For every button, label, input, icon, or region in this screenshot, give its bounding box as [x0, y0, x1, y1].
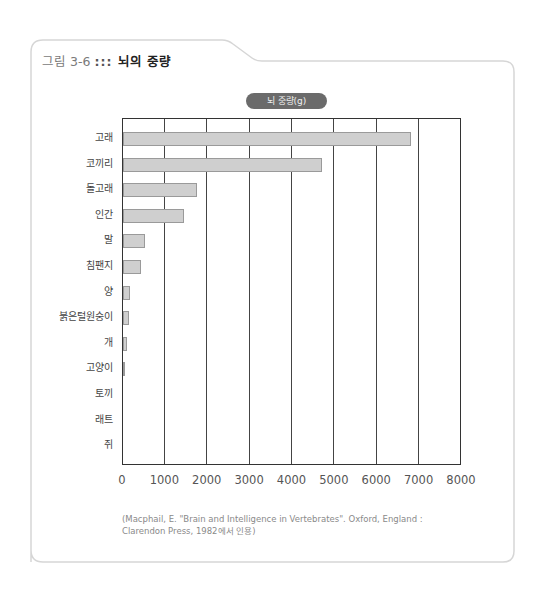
bar [123, 132, 411, 146]
y-category-label: 고래 [95, 131, 113, 145]
source-line-1: (Macphail, E. "Brain and Intelligence in… [122, 513, 452, 525]
x-tick-label: 8000 [446, 473, 475, 487]
y-category-label: 토끼 [95, 387, 113, 401]
gridline [418, 119, 419, 464]
x-tick-label: 4000 [277, 473, 306, 487]
plot-area [122, 118, 461, 465]
gridline [333, 119, 334, 464]
y-category-label: 말 [104, 233, 113, 247]
bar [123, 209, 184, 223]
x-tick-label: 0 [118, 473, 125, 487]
bar [123, 260, 141, 274]
y-category-label: 붉은털원숭이 [59, 310, 113, 324]
bar [123, 311, 129, 325]
y-category-label: 쥐 [104, 438, 113, 452]
bar [123, 337, 127, 351]
y-category-label: 고양이 [86, 361, 113, 375]
y-category-label: 돌고래 [86, 182, 113, 196]
bar [123, 158, 322, 172]
x-tick-label: 3000 [234, 473, 263, 487]
gridline [376, 119, 377, 464]
source-line-2: Clarendon Press, 1982에서 인용) [122, 525, 452, 537]
y-category-label: 인간 [95, 208, 113, 222]
legend-label: 뇌 중량(g) [246, 93, 327, 109]
x-tick-label: 6000 [362, 473, 391, 487]
source-citation: (Macphail, E. "Brain and Intelligence in… [122, 513, 452, 537]
y-category-label: 양 [104, 285, 113, 299]
figure-name: 뇌의 중량 [118, 54, 170, 69]
x-tick-label: 7000 [404, 473, 433, 487]
y-category-label: 개 [104, 336, 113, 350]
x-tick-label: 2000 [192, 473, 221, 487]
bar [123, 234, 145, 248]
figure-separator: ::: [94, 54, 112, 69]
y-category-label: 래트 [95, 413, 113, 427]
figure-title: 그림 3-6:::뇌의 중량 [42, 51, 171, 70]
y-category-label: 침팬지 [86, 259, 113, 273]
x-tick-label: 5000 [319, 473, 348, 487]
y-category-label: 코끼리 [86, 157, 113, 171]
bar [123, 183, 197, 197]
bar [123, 362, 125, 376]
bar [123, 286, 130, 300]
x-tick-label: 1000 [150, 473, 179, 487]
figure-number: 그림 3-6 [42, 54, 90, 69]
